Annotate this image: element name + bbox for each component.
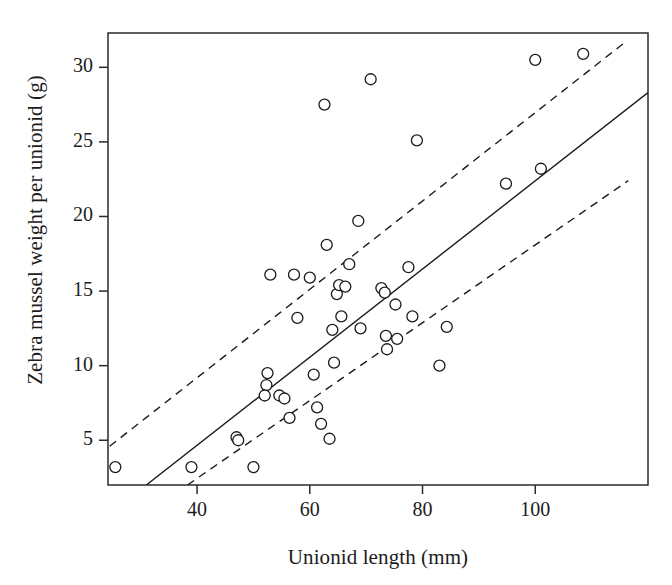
confidence-band-lines [110, 42, 629, 485]
data-point [319, 99, 330, 110]
data-point [353, 215, 364, 226]
data-point [336, 311, 347, 322]
data-point [279, 393, 290, 404]
data-point-markers [110, 48, 589, 472]
data-point [186, 462, 197, 473]
plot-frame [108, 33, 648, 485]
axis-ticks [99, 67, 535, 494]
y-tick-label: 30 [49, 54, 93, 77]
data-point [355, 323, 366, 334]
data-point [380, 330, 391, 341]
data-point [321, 239, 332, 250]
x-tick-label: 100 [510, 498, 560, 521]
data-point [434, 360, 445, 371]
data-point [441, 321, 452, 332]
data-point [233, 435, 244, 446]
data-point [390, 299, 401, 310]
y-tick-label: 20 [49, 203, 93, 226]
data-point [292, 312, 303, 323]
data-point [407, 311, 418, 322]
data-point [110, 462, 121, 473]
data-point [308, 369, 319, 380]
data-point [535, 163, 546, 174]
data-point [289, 269, 300, 280]
data-point [344, 259, 355, 270]
y-tick-label: 10 [49, 353, 93, 376]
data-point [578, 48, 589, 59]
data-point [312, 402, 323, 413]
data-point [259, 390, 270, 401]
y-tick-label: 5 [49, 427, 93, 450]
data-point [327, 324, 338, 335]
data-point [365, 74, 376, 85]
x-axis-label: Unionid length (mm) [108, 545, 648, 570]
data-point [411, 135, 422, 146]
data-point [248, 462, 259, 473]
data-point [382, 344, 393, 355]
data-point [500, 178, 511, 189]
data-point [329, 357, 340, 368]
data-point [261, 380, 272, 391]
x-tick-label: 80 [398, 498, 448, 521]
data-point [403, 262, 414, 273]
data-point [284, 412, 295, 423]
x-tick-label: 40 [172, 498, 222, 521]
x-tick-label: 60 [285, 498, 335, 521]
data-point [304, 272, 315, 283]
data-point [392, 333, 403, 344]
y-axis-label: Zebra mussel weight per unionid (g) [18, 0, 52, 490]
regression-line [146, 93, 648, 485]
data-point [379, 287, 390, 298]
y-tick-label: 25 [49, 129, 93, 152]
scatter-plot-figure: Zebra mussel weight per unionid (g) Unio… [0, 0, 672, 585]
data-point [340, 281, 351, 292]
data-point [262, 368, 273, 379]
data-point [530, 54, 541, 65]
plot-canvas [0, 0, 672, 585]
y-tick-label: 15 [49, 278, 93, 301]
data-point [265, 269, 276, 280]
data-point [324, 433, 335, 444]
data-point [316, 418, 327, 429]
